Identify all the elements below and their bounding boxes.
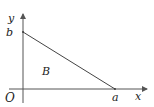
point-b: [22, 31, 24, 33]
origin-label: O: [5, 91, 15, 105]
b-label: b: [6, 26, 13, 39]
boundary-line: [23, 32, 115, 89]
y-axis-label: y: [7, 12, 15, 25]
region-label: B: [41, 65, 50, 78]
point-a: [114, 88, 116, 90]
x-axis-label: x: [135, 90, 142, 103]
a-label: a: [112, 91, 119, 104]
diagram-canvas: y b B O a x: [0, 0, 154, 107]
